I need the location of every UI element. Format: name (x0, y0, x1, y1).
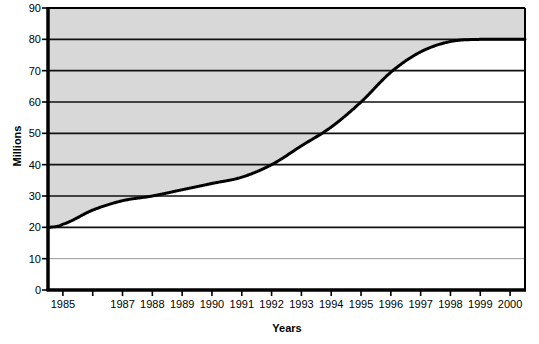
x-tick-label: 1988 (140, 298, 164, 310)
x-tick-label: 2000 (498, 298, 522, 310)
y-tick-label: 0 (0, 284, 41, 296)
y-tick-label: 20 (0, 221, 41, 233)
x-tick-label: 1987 (110, 298, 134, 310)
x-tick-label: 1997 (408, 298, 432, 310)
y-tick-label: 40 (0, 159, 41, 171)
y-tick-label: 90 (0, 2, 41, 14)
y-tick-label: 80 (0, 33, 41, 45)
x-tick-label: 1990 (200, 298, 224, 310)
y-tick-label: 70 (0, 65, 41, 77)
y-tick-label: 30 (0, 190, 41, 202)
x-tick-label: 1991 (230, 298, 254, 310)
chart-container: Millions 0102030405060708090 19851987198… (0, 0, 539, 344)
x-tick-label: 1995 (349, 298, 373, 310)
y-tick-label: 10 (0, 253, 41, 265)
y-tick-label: 60 (0, 96, 41, 108)
x-tick-label: 1999 (468, 298, 492, 310)
x-tick-label: 1994 (319, 298, 343, 310)
x-tick-label: 1985 (51, 298, 75, 310)
x-tick-label: 1992 (259, 298, 283, 310)
x-tick-label: 1996 (379, 298, 403, 310)
chart-plot-svg (0, 0, 539, 344)
x-axis-title: Years (48, 322, 526, 334)
x-tick-label: 1998 (438, 298, 462, 310)
x-tick-label: 1993 (289, 298, 313, 310)
x-tick-label: 1989 (170, 298, 194, 310)
y-tick-label: 50 (0, 127, 41, 139)
